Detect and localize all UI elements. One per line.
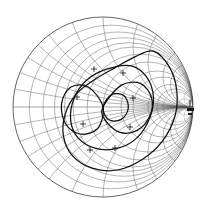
smith-chart-figure [0, 0, 208, 217]
frequency-marker [112, 145, 118, 151]
trace-right-petal [102, 82, 153, 133]
frequency-marker [80, 121, 86, 127]
trace-left-petal [61, 85, 103, 134]
reactance-arc [163, 47, 208, 107]
frequency-marker [91, 66, 97, 72]
smith-chart-canvas [0, 0, 208, 217]
reactance-arc [13, 107, 208, 217]
frequency-marker [87, 147, 93, 153]
reactance-arc [163, 107, 208, 167]
reactance-arc [64, 107, 208, 217]
reactance-arc [133, 107, 208, 217]
trace-outer-loop [63, 51, 177, 171]
